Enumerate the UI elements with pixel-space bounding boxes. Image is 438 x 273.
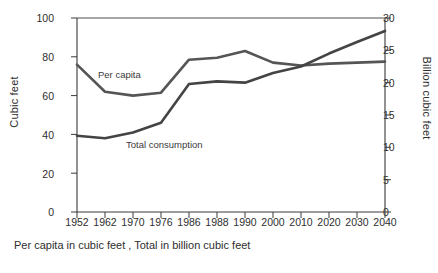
series-annotation-total-consumption: Total consumption [126, 139, 203, 150]
plot-area [0, 0, 438, 273]
series-line-total-consumption [77, 31, 385, 138]
chart-caption: Per capita in cubic feet , Total in bill… [14, 239, 250, 251]
chart-figure: Cubic feet Billion cubic feet 100 80 60 … [0, 0, 438, 273]
x-axis-ticks [77, 212, 385, 218]
y-axis-left-ticks [71, 18, 77, 212]
series-annotation-per-capita: Per capita [98, 69, 141, 80]
y-axis-right-ticks [385, 18, 391, 212]
